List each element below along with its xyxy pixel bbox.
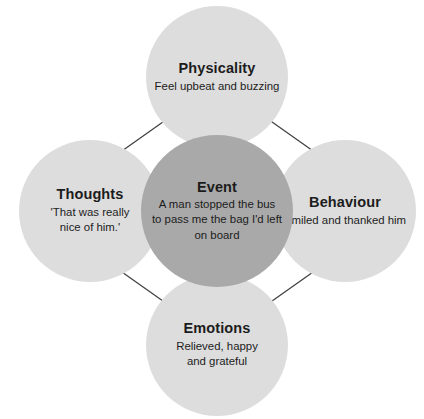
node-behaviour[interactable]: Behaviour Smiled and thanked him [274, 140, 416, 282]
diagram-canvas: Physicality Feel upbeat and buzzing Thou… [0, 0, 424, 419]
node-emotions-description-line: and grateful [176, 354, 258, 369]
node-behaviour-description: Smiled and thanked him [276, 213, 414, 228]
node-thoughts-description-line: nice of him.' [51, 220, 130, 235]
node-event[interactable]: Event A man stopped the bus to pass me t… [141, 135, 293, 287]
node-thoughts-description: 'That was really nice of him.' [43, 205, 138, 236]
node-thoughts-title: Thoughts [57, 186, 124, 203]
node-physicality-description: Feel upbeat and buzzing [147, 79, 288, 94]
node-thoughts-description-line: 'That was really [51, 205, 130, 220]
node-behaviour-title: Behaviour [309, 194, 381, 211]
node-emotions[interactable]: Emotions Relieved, happy and grateful [146, 274, 288, 416]
node-physicality-description-line: Feel upbeat and buzzing [155, 79, 280, 94]
node-event-description-line: A man stopped the bus [152, 197, 282, 213]
node-behaviour-description-line: Smiled and thanked him [284, 213, 406, 228]
node-physicality[interactable]: Physicality Feel upbeat and buzzing [146, 6, 288, 148]
node-emotions-title: Emotions [184, 320, 251, 337]
node-emotions-description: Relieved, happy and grateful [168, 339, 266, 370]
node-event-title: Event [197, 179, 237, 196]
node-physicality-title: Physicality [179, 60, 256, 77]
node-event-description-line: to pass me the bag I'd left [152, 212, 282, 228]
node-event-description: A man stopped the bus to pass me the bag… [146, 197, 288, 244]
node-emotions-description-line: Relieved, happy [176, 339, 258, 354]
node-thoughts[interactable]: Thoughts 'That was really nice of him.' [19, 140, 161, 282]
node-event-description-line: on board [152, 228, 282, 244]
